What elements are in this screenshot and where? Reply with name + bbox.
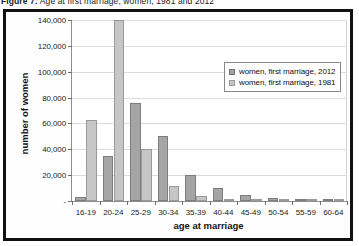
x-tick-label: 45-49 xyxy=(241,208,261,217)
plot-area: -20,00040,00060,00080,000100,000120,0001… xyxy=(71,20,347,202)
y-tick-label: 120,000 xyxy=(38,41,66,50)
x-tick-mark xyxy=(155,201,156,205)
x-tick-label: 25-29 xyxy=(131,208,151,217)
y-tick-label: 80,000 xyxy=(42,93,66,102)
x-tick-mark xyxy=(347,201,348,205)
x-tick-label: 20-24 xyxy=(103,208,123,217)
x-tick-mark xyxy=(237,201,238,205)
x-tick-mark xyxy=(210,201,211,205)
x-tick-mark xyxy=(292,201,293,205)
x-tick-mark xyxy=(182,201,183,205)
figure-caption-prefix: Figure 7: xyxy=(1,0,38,6)
chart-legend: women, first marriage, 2012women, first … xyxy=(224,62,341,92)
y-tick-label: 20,000 xyxy=(42,171,66,180)
bar xyxy=(334,199,345,201)
x-tick-label: 40-44 xyxy=(213,208,233,217)
x-tick-label: 55-59 xyxy=(296,208,316,217)
x-tick-mark xyxy=(100,201,101,205)
bar xyxy=(323,199,334,201)
legend-label: women, first marriage, 2012 xyxy=(239,67,335,76)
x-tick-mark xyxy=(320,201,321,205)
figure-caption-strip: Figure 7: Age at first marriage, women, … xyxy=(0,0,359,9)
y-tick-label: - xyxy=(63,197,66,206)
figure-caption: Figure 7: Age at first marriage, women, … xyxy=(1,0,214,6)
x-tick-label: 60-64 xyxy=(323,208,343,217)
x-tick-mark xyxy=(72,201,73,205)
x-tick-label: 16-19 xyxy=(76,208,96,217)
x-tick-label: 30-34 xyxy=(158,208,178,217)
legend-swatch-icon xyxy=(229,69,235,75)
x-tick-mark xyxy=(127,201,128,205)
x-axis-title: age at marriage xyxy=(71,220,346,231)
y-tick-label: 140,000 xyxy=(38,16,66,25)
figure-inner: number of women -20,00040,00060,00080,00… xyxy=(6,12,350,238)
figure-caption-text: Age at first marriage, women, 1981 and 2… xyxy=(38,0,214,6)
y-tick-label: 100,000 xyxy=(38,67,66,76)
legend-swatch-icon xyxy=(229,80,235,86)
figure-frame: number of women -20,00040,00060,00080,00… xyxy=(3,9,353,241)
y-axis-title: number of women xyxy=(19,59,30,169)
x-tick-mark xyxy=(265,201,266,205)
y-tick-label: 60,000 xyxy=(42,119,66,128)
legend-item: women, first marriage, 1981 xyxy=(229,77,335,88)
legend-item: women, first marriage, 2012 xyxy=(229,66,335,77)
bar-chart: number of women -20,00040,00060,00080,00… xyxy=(6,12,350,238)
bar-group xyxy=(72,20,347,201)
x-tick-label: 50-54 xyxy=(268,208,288,217)
x-tick-label: 35-39 xyxy=(186,208,206,217)
y-tick-label: 40,000 xyxy=(42,145,66,154)
bars-layer xyxy=(72,20,347,201)
legend-label: women, first marriage, 1981 xyxy=(239,78,335,87)
